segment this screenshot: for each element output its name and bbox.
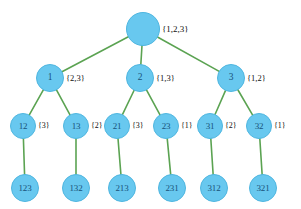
set-label-n1: {2,3} [66, 74, 85, 83]
tree-edge [122, 90, 134, 115]
tree-edge [238, 89, 253, 115]
tree-node-label: 132 [70, 184, 83, 193]
tree-node-n312[interactable]: 312 [200, 174, 228, 202]
tree-node-label: 2 [138, 73, 143, 83]
tree-edge [56, 89, 70, 115]
tree-node-n1[interactable]: 1 [36, 64, 64, 92]
tree-edge [211, 138, 213, 175]
tree-edge [215, 90, 226, 115]
tree-node-label: 1 [48, 73, 53, 83]
tree-edge [118, 138, 121, 175]
tree-node-n231[interactable]: 231 [158, 174, 186, 202]
tree-edge [146, 89, 160, 115]
set-label-n23: {1} [181, 122, 193, 130]
set-label-n12: {3} [38, 122, 50, 130]
set-label-n2: {1,3} [156, 74, 175, 83]
tree-node-label: 312 [208, 184, 221, 193]
tree-node-label: 13 [72, 122, 81, 131]
tree-edge [141, 45, 142, 65]
set-label-n3: {1,2} [247, 74, 266, 83]
tree-node-label: 23 [162, 122, 171, 131]
tree-edge [29, 89, 44, 115]
tree-node-label: 321 [257, 184, 270, 193]
tree-node-root[interactable] [126, 12, 160, 46]
tree-node-label: 231 [166, 184, 179, 193]
set-label-n21: {3} [132, 122, 144, 130]
tree-node-n321[interactable]: 321 [249, 174, 277, 202]
tree-edge [260, 138, 262, 175]
tree-node-n12[interactable]: 12 [10, 113, 36, 139]
tree-edge [157, 37, 220, 72]
tree-node-n23[interactable]: 23 [153, 113, 179, 139]
set-label-n31: {2} [225, 122, 237, 130]
tree-node-n32[interactable]: 32 [246, 113, 272, 139]
tree-node-n213[interactable]: 213 [108, 174, 136, 202]
tree-node-n2[interactable]: 2 [126, 64, 154, 92]
tree-edge [167, 138, 171, 175]
tree-edge [62, 36, 129, 71]
set-label-n32: {1} [274, 122, 286, 130]
tree-node-n132[interactable]: 132 [62, 174, 90, 202]
tree-node-n31[interactable]: 31 [197, 113, 223, 139]
tree-diagram-canvas: 123121321233132123132213231312321 {1,2,3… [0, 0, 301, 209]
tree-node-label: 213 [116, 184, 129, 193]
tree-node-n21[interactable]: 21 [104, 113, 130, 139]
tree-node-n123[interactable]: 123 [11, 174, 39, 202]
tree-node-label: 3 [229, 73, 234, 83]
tree-node-label: 123 [19, 184, 32, 193]
tree-node-n3[interactable]: 3 [217, 64, 245, 92]
tree-node-n13[interactable]: 13 [63, 113, 89, 139]
set-label-root: {1,2,3} [162, 25, 189, 34]
tree-node-label: 21 [113, 122, 122, 131]
tree-node-label: 12 [19, 122, 28, 131]
tree-node-label: 31 [206, 122, 215, 131]
tree-node-label: 32 [255, 122, 264, 131]
tree-edge [23, 138, 24, 175]
set-label-n13: {2} [91, 122, 103, 130]
